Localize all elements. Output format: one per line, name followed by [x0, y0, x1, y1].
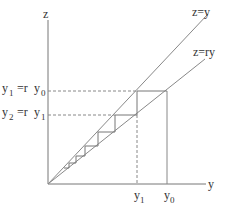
svg-text:y: y: [34, 105, 40, 119]
staircase-path: [64, 91, 167, 168]
z-axis-label: z: [43, 7, 48, 21]
line-z-equals-y: [48, 14, 208, 184]
svg-text:y: y: [2, 81, 8, 95]
svg-text:y: y: [34, 81, 40, 95]
line-z-equals-ry: [48, 59, 205, 184]
svg-text:1: 1: [41, 112, 46, 122]
tick-label-y0: y 0: [164, 188, 175, 205]
svg-text:=r: =r: [14, 105, 31, 119]
y-axis-label: y: [208, 177, 214, 191]
svg-text:0: 0: [170, 195, 175, 205]
line-label-z-equals-ry: z=ry: [193, 45, 215, 59]
cobweb-diagram: z y z=y z=ry y 1 =r y 0 y 2 =r y 1 y 1 y…: [0, 0, 225, 208]
z-label-y1: y 1 =r y 0: [2, 81, 46, 98]
line-label-z-equals-y: z=y: [192, 5, 210, 19]
svg-text:y: y: [2, 105, 8, 119]
svg-text:1: 1: [140, 195, 145, 205]
svg-text:1: 1: [9, 88, 14, 98]
tick-label-y1: y 1: [134, 188, 145, 205]
z-label-y2: y 2 =r y 1: [2, 105, 46, 122]
svg-text:2: 2: [9, 112, 14, 122]
svg-text:=r: =r: [14, 81, 31, 95]
svg-text:0: 0: [41, 88, 46, 98]
